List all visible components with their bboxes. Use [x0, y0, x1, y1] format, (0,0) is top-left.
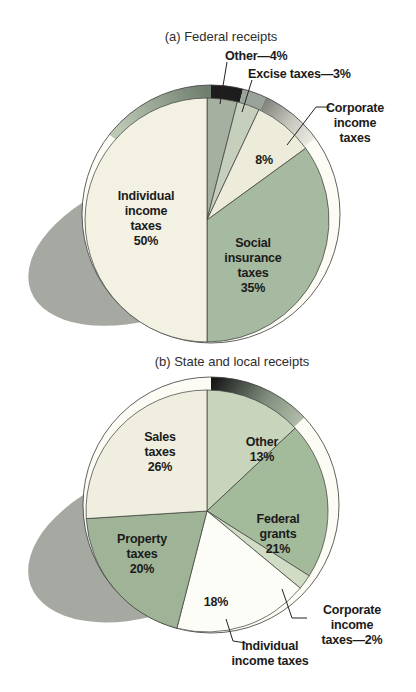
panel-a-caption: (a) Federal receipts [165, 29, 278, 45]
slice-sales-taxes [86, 390, 207, 519]
figure-page: (a) Federal receipts Other—4% Excise tax… [0, 0, 416, 692]
panel-b-caption: (b) State and local receipts [155, 354, 310, 370]
pie-chart-state-local [6, 377, 339, 653]
figure-canvas [0, 0, 416, 692]
pie-chart-federal [7, 85, 340, 356]
